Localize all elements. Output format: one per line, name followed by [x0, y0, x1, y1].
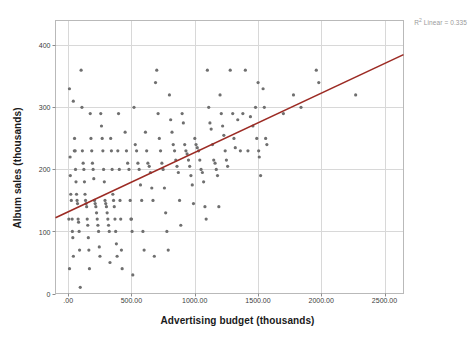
data-point [172, 143, 175, 146]
data-point [79, 286, 82, 289]
plot-canvas [0, 0, 475, 339]
data-point [220, 112, 223, 115]
data-point [83, 180, 86, 183]
data-point [104, 202, 107, 205]
data-point [74, 168, 77, 171]
data-point [292, 93, 295, 96]
data-point [159, 149, 162, 152]
y-axis-title: Album sales (thousands) [12, 107, 23, 228]
data-point [89, 137, 92, 140]
y-tick-label: 400 [23, 42, 51, 49]
data-point [201, 171, 204, 174]
data-point [177, 171, 180, 174]
data-point [246, 149, 249, 152]
data-point [82, 168, 85, 171]
data-point [157, 112, 160, 115]
y-tick-label: 0 [23, 290, 51, 297]
data-point [127, 168, 130, 171]
data-point [116, 149, 119, 152]
data-point [88, 267, 91, 270]
data-point [110, 149, 113, 152]
data-point [202, 180, 205, 183]
data-point [150, 186, 153, 189]
data-point [198, 159, 201, 162]
data-point [179, 224, 182, 227]
data-point [68, 155, 71, 158]
data-point [71, 230, 74, 233]
data-point [92, 168, 95, 171]
data-point [119, 217, 122, 220]
data-point [108, 261, 111, 264]
data-point [86, 224, 89, 227]
data-point [192, 202, 195, 205]
data-point [178, 199, 181, 202]
data-point [206, 69, 209, 72]
data-point [100, 124, 103, 127]
x-tick-label: 1000.00 [182, 297, 207, 304]
data-point [78, 230, 81, 233]
data-point [265, 143, 268, 146]
data-point [120, 248, 123, 251]
data-point [94, 202, 97, 205]
data-point [85, 205, 88, 208]
data-point [73, 137, 76, 140]
data-point [169, 118, 172, 121]
data-point [135, 149, 138, 152]
x-tick-label: 2000.00 [309, 297, 334, 304]
data-point [89, 112, 92, 115]
data-point [231, 112, 234, 115]
data-point [165, 230, 168, 233]
data-point [130, 217, 133, 220]
data-point [154, 81, 157, 84]
data-point [188, 165, 191, 168]
data-point [141, 230, 144, 233]
data-point [92, 177, 95, 180]
data-point [80, 69, 83, 72]
data-point [69, 193, 72, 196]
data-point [258, 155, 261, 158]
data-point [255, 137, 258, 140]
data-point [249, 115, 252, 118]
data-point [232, 137, 235, 140]
data-point [125, 149, 128, 152]
data-point [82, 162, 85, 165]
x-tick-label: 2500.00 [372, 297, 397, 304]
data-point [94, 205, 97, 208]
data-point [182, 121, 185, 124]
data-point [317, 81, 320, 84]
data-point [261, 87, 264, 90]
data-point [111, 168, 114, 171]
data-point [86, 217, 89, 220]
data-point [146, 162, 149, 165]
data-point [118, 199, 121, 202]
x-tick-label: .00 [63, 297, 73, 304]
data-point [236, 118, 239, 121]
data-point [144, 131, 147, 134]
data-point [136, 162, 139, 165]
data-point [106, 217, 109, 220]
data-point [118, 168, 121, 171]
data-point [184, 149, 187, 152]
data-point [75, 193, 78, 196]
data-point [76, 217, 79, 220]
data-point [160, 162, 163, 165]
data-point [212, 159, 215, 162]
data-point [77, 221, 80, 224]
data-point [226, 165, 229, 168]
y-tick-label: 100 [23, 228, 51, 235]
data-point [74, 180, 77, 183]
data-point [126, 162, 129, 165]
data-point [72, 255, 75, 258]
data-point [170, 131, 173, 134]
data-point [194, 143, 197, 146]
data-point [90, 149, 93, 152]
data-point [75, 199, 78, 202]
data-point [167, 248, 170, 251]
data-point [143, 248, 146, 251]
data-point [98, 255, 101, 258]
data-point [217, 205, 220, 208]
data-points-layer [67, 69, 357, 289]
data-point [189, 174, 192, 177]
data-point [181, 112, 184, 115]
data-point [78, 248, 81, 251]
